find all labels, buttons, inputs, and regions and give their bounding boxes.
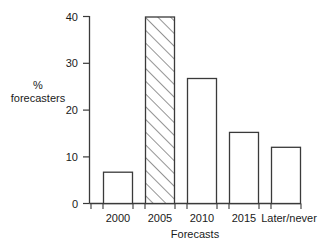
bar-2010[interactable] bbox=[188, 79, 217, 204]
y-tick-label: 30 bbox=[66, 57, 78, 69]
y-axis-ticks bbox=[83, 17, 90, 204]
x-axis-ticks bbox=[91, 204, 301, 210]
x-tick-label-2015: 2015 bbox=[232, 212, 256, 224]
bar-2005-highlighted[interactable] bbox=[146, 17, 175, 204]
bars-group bbox=[104, 17, 301, 204]
y-tick-label: 0 bbox=[72, 198, 78, 210]
y-tick-label: 10 bbox=[66, 151, 78, 163]
x-axis-label: Forecasts bbox=[89, 228, 301, 241]
x-tick-label-later-never: Later/never bbox=[261, 212, 317, 224]
y-tick-label: 20 bbox=[66, 104, 78, 116]
chart-plot-area: 40 30 20 10 0 bbox=[0, 0, 328, 248]
x-tick-label-2010: 2010 bbox=[190, 212, 214, 224]
x-tick-label-2005: 2005 bbox=[148, 212, 172, 224]
x-tick-labels: 2000 2005 2010 2015 Later/never bbox=[106, 212, 317, 224]
bar-later-never[interactable] bbox=[272, 147, 301, 203]
x-tick-label-2000: 2000 bbox=[106, 212, 130, 224]
y-tick-labels: 40 30 20 10 0 bbox=[66, 11, 78, 210]
bar-2000[interactable] bbox=[104, 172, 133, 203]
bar-chart: % forecasters 40 30 20 10 0 bbox=[0, 0, 328, 248]
bar-2015[interactable] bbox=[230, 132, 259, 203]
y-tick-label: 40 bbox=[66, 11, 78, 23]
